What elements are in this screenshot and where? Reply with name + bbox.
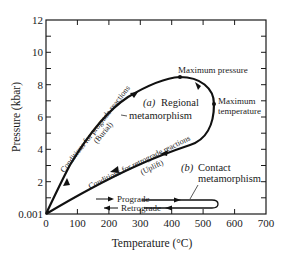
pt-diagram: 0.001 2 4 6 8 10 12 0 100 200 300 400 50…	[0, 0, 291, 261]
contact-leader-line	[190, 185, 198, 199]
y-tick-8: 8	[38, 79, 44, 91]
regional-leader-line	[121, 115, 127, 116]
contact-retrograde-arrow-icon	[165, 206, 172, 211]
prograde-conditions-label: Conditions for prograde reactions	[58, 84, 131, 174]
x-axis-title: Temperature (°C)	[112, 237, 193, 250]
regional-sub-label: metamorphism	[129, 110, 192, 121]
x-tick-300: 300	[132, 217, 149, 229]
max-temperature-marker	[212, 102, 216, 106]
contact-prograde-arrow-icon	[174, 198, 181, 203]
retrograde-legend-arrow-icon	[104, 206, 110, 211]
y-tick-labels: 0.001 2 4 6 8 10 12	[18, 14, 43, 220]
x-tick-400: 400	[163, 217, 180, 229]
y-tick-0: 0.001	[18, 208, 43, 220]
x-tick-500: 500	[195, 217, 212, 229]
x-tick-200: 200	[101, 217, 118, 229]
y-tick-10: 10	[32, 46, 44, 58]
pressure-arrow-icon	[195, 82, 201, 90]
max-temperature-label-1: Maximum	[218, 96, 256, 106]
retrograde-conditions-label: Conditions for retrograde reactions	[87, 134, 192, 191]
y-axis-title: Pressure (kbar)	[10, 82, 23, 152]
regional-a-label: (a)	[143, 97, 156, 109]
x-tick-100: 100	[69, 217, 86, 229]
regional-title-label: Regional	[161, 97, 199, 108]
max-pressure-label: Maximum pressure	[178, 65, 248, 75]
prograde-legend-arrow-icon	[108, 197, 114, 202]
max-temperature-label-2: temperature	[218, 106, 261, 116]
x-tick-0: 0	[43, 217, 49, 229]
contact-b-label: (b)	[181, 162, 194, 174]
y-tick-4: 4	[38, 143, 44, 155]
max-pressure-marker	[178, 75, 182, 79]
retrograde-label: Retrograde	[121, 203, 161, 213]
x-tick-labels: 0 100 200 300 400 500 600 700	[43, 217, 275, 229]
prograde-arrow-icon	[63, 178, 70, 186]
x-tick-600: 600	[226, 217, 243, 229]
y-tick-6: 6	[38, 111, 44, 123]
y-tick-12: 12	[32, 14, 43, 26]
contact-sub-label: metamorphism	[198, 173, 261, 184]
contact-title-label: Contact	[198, 162, 231, 173]
y-tick-2: 2	[38, 176, 44, 188]
x-tick-700: 700	[258, 217, 275, 229]
